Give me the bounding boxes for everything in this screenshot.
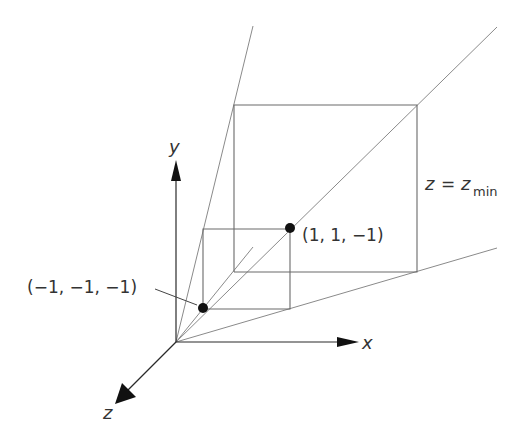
far-plane-rect — [234, 105, 417, 272]
x-axis-arrow-icon — [337, 337, 359, 347]
point-1-1-neg1 — [285, 223, 295, 233]
z-axis-arrow-icon — [115, 383, 136, 404]
plane-label-lhs: z — [424, 173, 435, 194]
plane-label-rhs: z — [460, 173, 471, 194]
z-axis-label: z — [102, 402, 113, 423]
plane-label: z = z min — [424, 173, 498, 199]
point-label-1-1-neg1: (1, 1, −1) — [302, 225, 384, 245]
point-label-neg1-neg1-neg1: (−1, −1, −1) — [27, 277, 137, 297]
point-neg1-neg1-neg1 — [198, 303, 208, 313]
plane-label-subscript: min — [473, 184, 498, 199]
y-axis-label: y — [168, 136, 180, 157]
z-axis — [127, 342, 176, 391]
x-axis-label: x — [361, 332, 373, 353]
plane-label-equals: = — [441, 174, 455, 194]
frustum-diagram: y x z (1, 1, −1) (−1, −1, −1) z = z min — [0, 0, 518, 440]
y-axis-arrow-icon — [171, 160, 181, 181]
near-plane-rect — [203, 229, 290, 309]
